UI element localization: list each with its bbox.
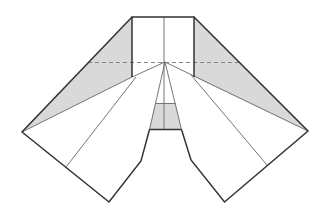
- shaded-regions: [22, 17, 308, 132]
- top-square-edges: [132, 17, 194, 77]
- origami-diagram: [0, 0, 326, 214]
